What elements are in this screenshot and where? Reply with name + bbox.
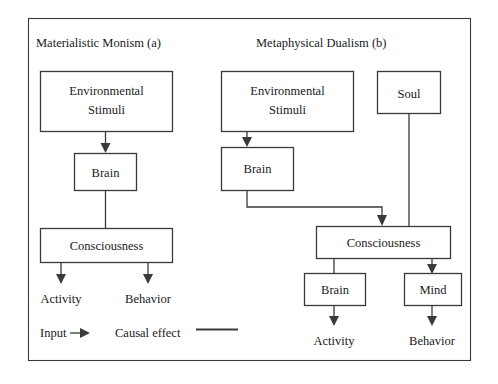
node-a-brain: Brain xyxy=(75,154,137,191)
edge-b-brain2-to-activity xyxy=(329,306,339,327)
legend: Input Causal effect xyxy=(40,326,238,340)
edge-a-consciousness-to-behavior xyxy=(143,263,153,285)
node-b-mind-label: Mind xyxy=(419,283,447,297)
node-a-behavior-label: Behavior xyxy=(125,292,172,306)
node-a-consciousness: Consciousness xyxy=(41,229,173,263)
node-a-brain-label: Brain xyxy=(92,166,121,180)
node-b-environmental-stimuli-label-line1: Environmental xyxy=(250,84,325,98)
figure-container: Materialistic Monism (a) Environmental S… xyxy=(0,0,498,384)
node-b-brain-lower-label: Brain xyxy=(321,283,350,297)
edge-a-consciousness-to-activity xyxy=(56,263,66,285)
node-b-brain-label: Brain xyxy=(244,162,273,176)
node-b-environmental-stimuli-label-line2: Stimuli xyxy=(269,103,306,117)
node-b-behavior-label: Behavior xyxy=(409,334,456,348)
edge-b-consciousness-to-mind xyxy=(427,259,437,275)
node-b-consciousness: Consciousness xyxy=(317,227,451,259)
node-a-environmental-stimuli-label-line2: Stimuli xyxy=(88,103,125,117)
panel-metaphysical-dualism: Metaphysical Dualism (b) Environmental S… xyxy=(222,36,462,348)
node-a-environmental-stimuli-label-line1: Environmental xyxy=(69,84,144,98)
edge-a-env-to-brain xyxy=(101,132,111,154)
node-b-consciousness-label: Consciousness xyxy=(347,236,421,250)
node-b-soul-label: Soul xyxy=(398,87,421,101)
legend-causal-label: Causal effect xyxy=(115,326,181,340)
edge-b-mind-to-behavior xyxy=(427,306,437,327)
node-b-soul: Soul xyxy=(378,72,441,114)
node-a-environmental-stimuli: Environmental Stimuli xyxy=(41,72,173,132)
node-a-consciousness-label: Consciousness xyxy=(70,239,144,253)
node-b-mind: Mind xyxy=(405,274,462,306)
node-b-activity-label: Activity xyxy=(314,334,356,348)
node-b-environmental-stimuli: Environmental Stimuli xyxy=(222,72,354,132)
panel-b-title: Metaphysical Dualism (b) xyxy=(256,36,387,50)
panel-materialistic-monism: Materialistic Monism (a) Environmental S… xyxy=(36,36,173,306)
edge-b-brain-to-consciousness xyxy=(247,191,387,227)
legend-input-label: Input xyxy=(40,326,67,340)
node-a-activity-label: Activity xyxy=(41,292,83,306)
edge-b-env-to-brain xyxy=(242,132,252,148)
node-b-brain-lower: Brain xyxy=(305,274,366,306)
legend-input-arrow-icon xyxy=(70,328,90,338)
panel-a-title: Materialistic Monism (a) xyxy=(36,36,161,50)
node-b-brain: Brain xyxy=(222,148,294,191)
